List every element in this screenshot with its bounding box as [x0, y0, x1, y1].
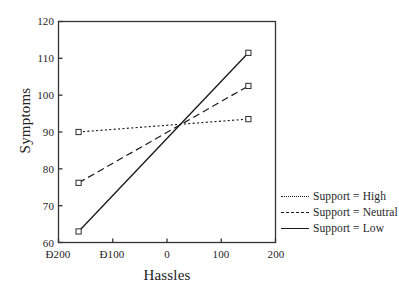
solid-line-icon	[281, 223, 309, 233]
chart-figure: Symptoms Hassles 120 110 100 90 80 70 60…	[0, 0, 399, 297]
legend-label-support-high: Support = High	[313, 190, 386, 202]
chart-legend: Support = High Support = Neutral Support…	[281, 186, 399, 234]
legend-item-support-neutral: Support = Neutral	[281, 202, 399, 218]
dashed-line-icon	[281, 207, 309, 217]
legend-label-support-neutral: Support = Neutral	[313, 206, 398, 218]
dotted-line-icon	[281, 191, 309, 201]
plot-area	[0, 0, 399, 297]
legend-item-support-low: Support = Low	[281, 218, 399, 234]
legend-item-support-high: Support = High	[281, 186, 399, 202]
legend-label-support-low: Support = Low	[313, 222, 384, 234]
data-series-group	[79, 53, 249, 232]
